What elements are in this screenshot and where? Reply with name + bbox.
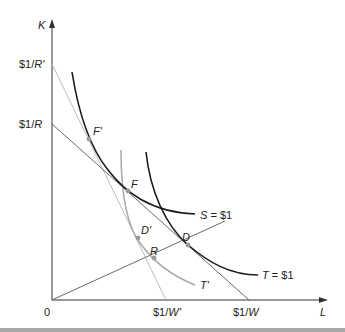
isoquant-diagram: K L 0 $1/R' $1/R $1/W' $1/W S = $1 T = $…: [0, 0, 345, 332]
x-intercept-w-label: $1/W: [233, 306, 260, 318]
y-intercept-r-prime-label: $1/R': [19, 58, 45, 70]
l-axis-label: L: [320, 306, 326, 318]
point-f-prime-label: F': [93, 125, 103, 137]
point-d-prime-label: D': [141, 224, 152, 236]
point-f-prime: [87, 137, 92, 142]
isocost-line-prime: [52, 64, 166, 300]
point-d-prime: [136, 236, 141, 241]
point-f: [126, 189, 131, 194]
isoquant-s-label: S = $1: [200, 209, 232, 221]
l-axis-arrow-icon: [319, 297, 328, 303]
k-axis-label: K: [38, 19, 46, 31]
point-f-label: F: [131, 178, 139, 190]
k-axis-arrow-icon: [49, 19, 55, 28]
point-r-label: R: [150, 245, 158, 257]
isoquant-t-prime: [121, 150, 195, 285]
y-intercept-r-label: $1/R: [19, 118, 42, 130]
origin-label: 0: [44, 306, 50, 318]
point-d: [186, 243, 191, 248]
x-intercept-w-prime-label: $1/W': [153, 306, 182, 318]
point-d-label: D: [182, 231, 190, 243]
isoquant-t-prime-label: T': [200, 279, 210, 291]
bottom-divider-bar: [0, 328, 345, 332]
isoquant-t-label: T = $1: [262, 269, 294, 281]
